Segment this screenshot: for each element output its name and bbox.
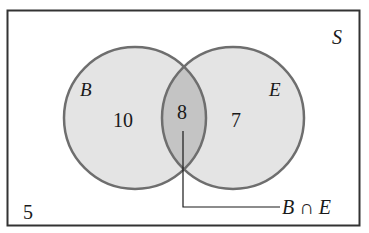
set-b-only-count: 10 — [113, 109, 133, 131]
set-b-label: B — [80, 79, 92, 100]
intersection-callout-label: B ∩ E — [282, 196, 331, 218]
set-e-label: E — [268, 79, 281, 100]
intersection-count: 8 — [177, 101, 187, 123]
universe-label: S — [332, 26, 342, 48]
venn-diagram: S B E 10 8 7 5 B ∩ E — [0, 0, 369, 233]
outside-count: 5 — [23, 201, 33, 223]
set-e-only-count: 7 — [231, 109, 241, 131]
